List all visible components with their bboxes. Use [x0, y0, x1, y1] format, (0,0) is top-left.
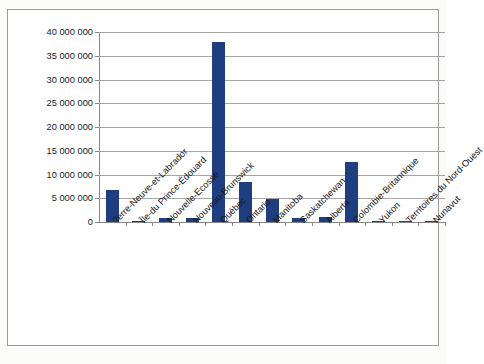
x-tick-label: Colombie-Britannique — [351, 218, 358, 225]
y-tick-mark — [95, 56, 99, 57]
x-tick-label: Territoires du Nord-Ouest — [404, 218, 411, 225]
x-tick-label: Île-du Prince-Édouard — [138, 218, 145, 225]
y-tick-mark — [95, 175, 99, 176]
y-tick-mark — [95, 80, 99, 81]
x-tick-label: Saskatchewan — [298, 218, 305, 225]
x-tick-label: Québec — [218, 218, 225, 225]
x-tick-label: Yukon — [377, 218, 384, 225]
gridline — [99, 127, 445, 128]
gridline — [99, 56, 445, 57]
chart-title — [0, 0, 447, 4]
x-tick-mark — [445, 222, 446, 226]
gridline — [99, 103, 445, 104]
y-tick-mark — [95, 32, 99, 33]
x-tick-label: Ontario — [244, 218, 251, 225]
x-tick-label: Nouveau-Brunswick — [191, 218, 198, 225]
plot-area: 05 000 00010 000 00015 000 00020 000 000… — [99, 32, 445, 222]
y-tick-label: 15 000 000 — [46, 146, 93, 156]
y-tick-label: 30 000 000 — [46, 75, 93, 85]
y-tick-label: 5 000 000 — [52, 193, 93, 203]
gridline — [99, 151, 445, 152]
x-tick-label: Alberta — [324, 218, 331, 225]
y-tick-label: 10 000 000 — [46, 170, 93, 180]
y-tick-mark — [95, 151, 99, 152]
y-tick-label: 25 000 000 — [46, 98, 93, 108]
gridline — [99, 32, 445, 33]
y-tick-label: 40 000 000 — [46, 27, 93, 37]
x-tick-label: Terre-Neuve-et-Labrador — [111, 218, 118, 225]
y-tick-mark — [95, 127, 99, 128]
x-axis-labels: Terre-Neuve-et-LabradorÎle-du Prince-Édo… — [91, 216, 437, 346]
x-tick-label: Nouvelle-Ecosse — [165, 218, 172, 225]
gridline — [99, 80, 445, 81]
y-tick-mark — [95, 198, 99, 199]
y-tick-mark — [95, 103, 99, 104]
y-tick-label: 35 000 000 — [46, 51, 93, 61]
x-tick-label: Manitoba — [271, 218, 278, 225]
y-tick-label: 20 000 000 — [46, 122, 93, 132]
x-tick-label: Nunavut — [431, 218, 438, 225]
